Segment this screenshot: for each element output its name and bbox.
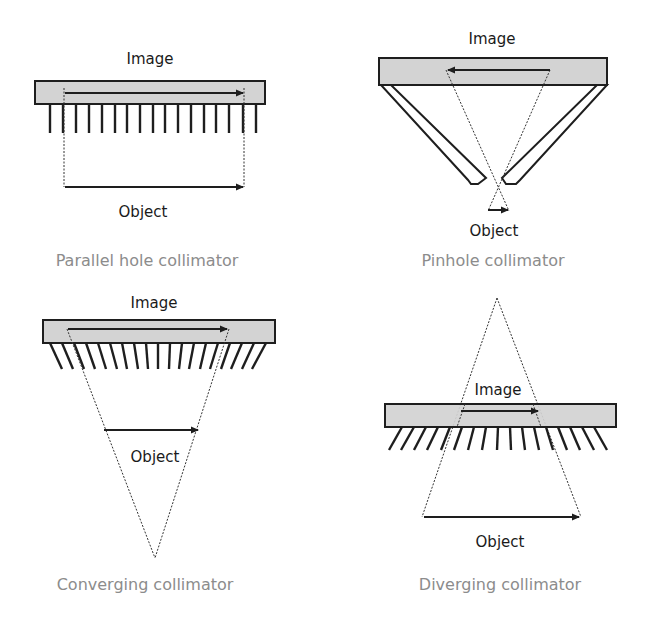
ray-right — [155, 329, 229, 558]
detector-crystal — [379, 58, 607, 85]
detector-crystal — [385, 404, 616, 427]
collimator-wall-left — [381, 85, 486, 184]
object-label: Object — [476, 533, 525, 551]
image-label: Image — [475, 381, 522, 399]
caption: Diverging collimator — [419, 575, 582, 594]
collimator-wall-right — [502, 85, 607, 184]
septa — [50, 104, 256, 133]
collimator-diagram: Image Object Parallel hole collimator — [0, 0, 648, 627]
ray-left — [67, 329, 155, 558]
ray-left-to-right — [446, 70, 509, 211]
septa-converging — [50, 343, 266, 369]
object-label: Object — [470, 222, 519, 240]
image-label: Image — [131, 294, 178, 312]
detector-crystal — [43, 320, 275, 343]
object-label: Object — [119, 203, 168, 221]
panel-parallel-hole: Image Object Parallel hole collimator — [35, 50, 265, 270]
image-label: Image — [469, 30, 516, 48]
image-label: Image — [127, 50, 174, 68]
caption: Pinhole collimator — [421, 251, 565, 270]
caption: Parallel hole collimator — [56, 251, 239, 270]
septa-diverging — [389, 427, 607, 450]
panel-diverging: Image Object Diverging collimator — [385, 298, 616, 594]
caption: Converging collimator — [57, 575, 234, 594]
panel-converging: Image Object Converging — [43, 294, 275, 594]
panel-pinhole: Image Object Pinhole collimator — [379, 30, 607, 270]
object-label: Object — [131, 448, 180, 466]
